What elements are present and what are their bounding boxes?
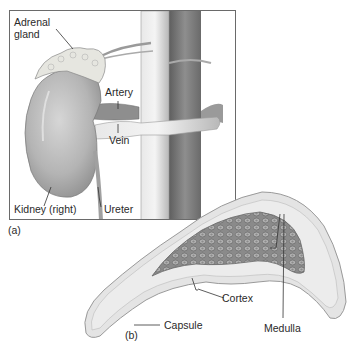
adrenal-cross-section	[0, 0, 352, 350]
label-cortex: Cortex	[222, 292, 253, 304]
label-medulla: Medulla	[264, 322, 301, 334]
panel-b-marker: (b)	[125, 329, 138, 341]
label-capsule: Capsule	[164, 319, 203, 331]
